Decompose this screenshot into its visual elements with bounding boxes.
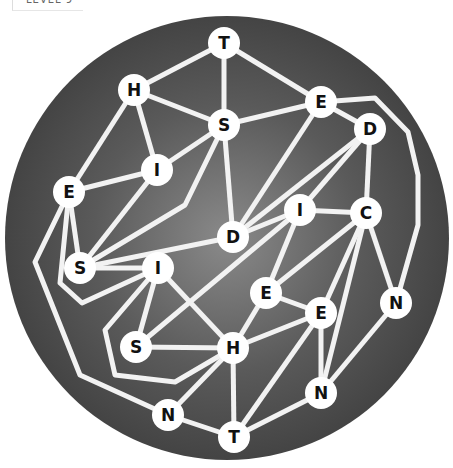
node-letter: E [260,283,272,303]
node-letter: N [161,405,175,425]
node-letter: C [360,203,372,223]
letter-node-e[interactable]: E [305,297,337,329]
node-letter: H [127,80,141,100]
node-letter: S [218,115,230,135]
letter-node-t[interactable]: T [218,421,250,453]
letter-node-s[interactable]: S [64,252,96,284]
node-letter: T [218,33,230,53]
letter-node-e[interactable]: E [305,86,337,118]
letter-node-n[interactable]: N [305,377,337,409]
node-letter: E [315,92,327,112]
letter-node-d[interactable]: D [354,113,386,145]
letter-node-n[interactable]: N [152,399,184,431]
node-letter: S [130,337,142,357]
node-letter: D [226,227,240,247]
letter-node-e[interactable]: E [53,176,85,208]
letter-node-h[interactable]: H [118,74,150,106]
word-graph-board: THSEDIEICDSIENESHNNT [0,0,453,468]
letter-node-s[interactable]: S [208,109,240,141]
node-letter: E [315,303,327,323]
letter-node-t[interactable]: T [208,27,240,59]
node-letter: I [297,200,303,220]
letter-node-s[interactable]: S [120,331,152,363]
node-letter: H [226,338,240,358]
node-letter: T [228,427,240,447]
letter-node-h[interactable]: H [217,332,249,364]
node-letter: D [363,119,377,139]
letter-node-i[interactable]: I [141,154,173,186]
node-letter: I [155,258,161,278]
node-letter: N [389,293,403,313]
node-letter: S [74,258,86,278]
node-letter: E [63,182,75,202]
letter-node-c[interactable]: C [350,197,382,229]
node-letter: I [154,160,160,180]
letter-node-d[interactable]: D [217,221,249,253]
node-letter: N [314,383,328,403]
letter-node-i[interactable]: I [284,194,316,226]
letter-node-i[interactable]: I [142,252,174,284]
letter-node-e[interactable]: E [250,277,282,309]
letter-node-n[interactable]: N [380,287,412,319]
